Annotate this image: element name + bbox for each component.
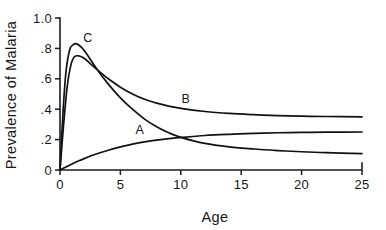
y-axis-tick-label: .8 [41,41,52,56]
malaria-prevalence-line-chart: 0.2.4.6.81.0 0510152025 ABC Age Prevalen… [0,0,386,230]
y-axis-tick-label: 1.0 [33,11,52,26]
chart-figure: 0.2.4.6.81.0 0510152025 ABC Age Prevalen… [0,0,386,230]
x-axis-tick-label: 0 [56,177,64,192]
y-axis-tick-label: 0 [44,163,52,178]
curve-label-b: B [181,92,189,106]
x-axis-title: Age [202,209,229,225]
x-axis-tick-label: 20 [294,177,309,192]
y-axis-tick-label: .6 [41,71,52,86]
x-axis-tick-label: 25 [354,177,369,192]
curve-label-c: C [83,31,92,45]
curve-label-a: A [136,123,145,137]
y-axis-title: Prevalence of Malaria [3,20,19,169]
x-axis-tick-label: 15 [234,177,249,192]
y-axis-tick-label: .2 [41,132,52,147]
chart-background [0,0,386,230]
y-axis-tick-label: .4 [41,102,52,117]
x-axis-tick-label: 5 [117,177,125,192]
x-axis-tick-label: 10 [173,177,188,192]
